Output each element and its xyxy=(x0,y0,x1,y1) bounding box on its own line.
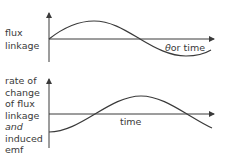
bottom-y-label-line-4: linkage xyxy=(5,110,39,122)
top-y-label-line-1: flux xyxy=(5,27,23,39)
bottom-y-label-line-7: emf xyxy=(5,144,23,156)
bottom-y-label-line-3: of flux xyxy=(5,98,35,110)
top-x-label-text: or time xyxy=(171,42,205,53)
bottom-y-label-line-2: change xyxy=(5,87,40,99)
bottom-y-label-line-5: and xyxy=(5,121,23,133)
bottom-graph xyxy=(49,79,214,148)
bottom-y-label-line-6: induced xyxy=(5,133,43,145)
bottom-y-label-line-1: rate of xyxy=(5,75,36,87)
top-y-label-line-2: linkage xyxy=(5,40,39,52)
bottom-x-label: time xyxy=(120,116,141,128)
top-x-label: θor time xyxy=(165,42,205,54)
top-graph xyxy=(49,13,214,62)
